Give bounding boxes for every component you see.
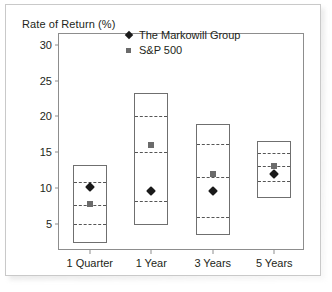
x-axis-tick-mark [212, 249, 213, 254]
quartile-divider-line [135, 116, 167, 117]
data-point-marker-sp500 [87, 201, 93, 207]
y-axis-tick-mark [55, 80, 59, 81]
quartile-divider-line [197, 217, 229, 218]
quartile-divider-line [258, 153, 290, 154]
range-box [196, 124, 230, 235]
square-marker-icon [124, 44, 136, 55]
data-point-marker-sp500 [271, 163, 277, 169]
quartile-divider-line [258, 181, 290, 182]
plot-area: 510152025301 Quarter1 Year3 Years5 Years [58, 33, 304, 250]
y-axis-title: Rate of Return (%) [22, 18, 116, 30]
diamond-marker-icon [124, 29, 136, 40]
quartile-divider-line [135, 201, 167, 202]
x-axis-category-label: 1 Year [136, 257, 167, 269]
plot-inner: 510152025301 Quarter1 Year3 Years5 Years [59, 34, 303, 249]
x-axis-tick-mark [89, 249, 90, 254]
data-point-marker-sp500 [210, 171, 216, 177]
quartile-divider-line [197, 144, 229, 145]
quartile-divider-line [135, 152, 167, 153]
legend-entry: The Markowill Group [124, 27, 240, 42]
quartile-divider-line [74, 224, 106, 225]
y-axis-tick-mark [55, 116, 59, 117]
y-axis-tick-mark [55, 223, 59, 224]
x-axis-category-label: 1 Quarter [67, 257, 113, 269]
x-axis-category-label: 3 Years [194, 257, 231, 269]
y-axis-tick-mark [55, 152, 59, 153]
chart-figure-card: Rate of Return (%) 510152025301 Quarter1… [5, 4, 321, 276]
x-axis-tick-mark [151, 249, 152, 254]
legend-label: The Markowill Group [136, 29, 240, 41]
x-axis-category-label: 5 Years [256, 257, 293, 269]
x-axis-tick-mark [274, 249, 275, 254]
data-point-marker-sp500 [148, 142, 154, 148]
range-box [134, 93, 168, 225]
legend-label: S&P 500 [136, 44, 182, 56]
y-axis-tick-mark [55, 44, 59, 45]
y-axis-tick-mark [55, 187, 59, 188]
legend-entry: S&P 500 [124, 42, 240, 57]
chart-legend: The Markowill GroupS&P 500 [124, 27, 240, 57]
